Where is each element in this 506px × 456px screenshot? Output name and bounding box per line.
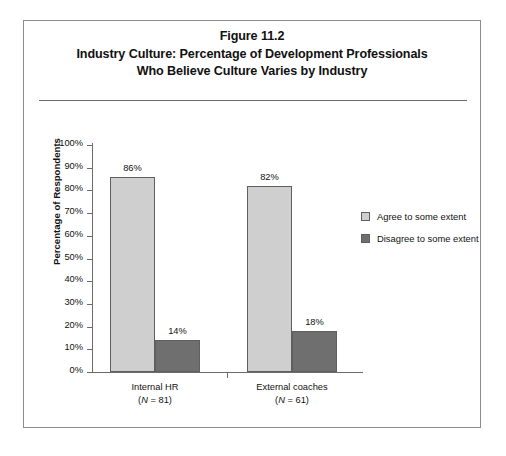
bar: [292, 331, 337, 372]
figure-frame: Figure 11.2 Industry Culture: Percentage…: [23, 20, 481, 428]
y-tick-label: 100%: [59, 138, 83, 148]
x-axis-mid-tick: [227, 373, 228, 378]
category-label: External coaches(N = 61): [229, 381, 355, 407]
y-tick-mark: [87, 372, 92, 373]
chart-legend: Agree to some extent Disagree to some ex…: [361, 211, 481, 254]
y-tick-mark: [87, 190, 92, 191]
y-tick-mark: [87, 349, 92, 350]
category-sample-size: (N = 81): [92, 394, 218, 407]
bar: [247, 186, 292, 372]
bar: [110, 177, 155, 372]
legend-item-disagree: Disagree to some extent: [361, 233, 481, 246]
bar-value-label: 82%: [247, 172, 292, 182]
bar: [155, 340, 200, 372]
bar-value-label: 14%: [155, 326, 200, 336]
legend-label-disagree: Disagree to some extent: [377, 233, 479, 244]
y-tick-mark: [87, 168, 92, 169]
legend-swatch-agree: [361, 212, 370, 221]
bar-value-label: 86%: [110, 163, 155, 173]
y-tick-label: 70%: [64, 206, 83, 216]
legend-item-agree: Agree to some extent: [361, 211, 481, 224]
category-label: Internal HR(N = 81): [92, 381, 218, 407]
y-tick-label: 20%: [64, 320, 83, 330]
y-axis-line: [92, 143, 93, 373]
y-tick-mark: [87, 213, 92, 214]
category-sample-size: (N = 61): [229, 394, 355, 407]
bar-chart: Percentage of Respondents 0%10%20%30%40%…: [24, 21, 482, 429]
y-tick-label: 50%: [64, 252, 83, 262]
category-name: External coaches: [229, 381, 355, 394]
y-tick-label: 60%: [64, 229, 83, 239]
legend-swatch-disagree: [361, 234, 370, 243]
y-tick-mark: [87, 304, 92, 305]
y-tick-label: 40%: [64, 274, 83, 284]
y-tick-label: 10%: [64, 342, 83, 352]
category-name: Internal HR: [92, 381, 218, 394]
y-tick-mark: [87, 145, 92, 146]
y-tick-mark: [87, 236, 92, 237]
y-tick-mark: [87, 327, 92, 328]
bar-value-label: 18%: [292, 317, 337, 327]
y-tick-mark: [87, 259, 92, 260]
y-tick-mark: [87, 281, 92, 282]
y-tick-label: 0%: [70, 365, 83, 375]
legend-label-agree: Agree to some extent: [377, 211, 466, 222]
y-tick-label: 30%: [64, 297, 83, 307]
y-tick-label: 80%: [64, 183, 83, 193]
y-tick-label: 90%: [64, 161, 83, 171]
